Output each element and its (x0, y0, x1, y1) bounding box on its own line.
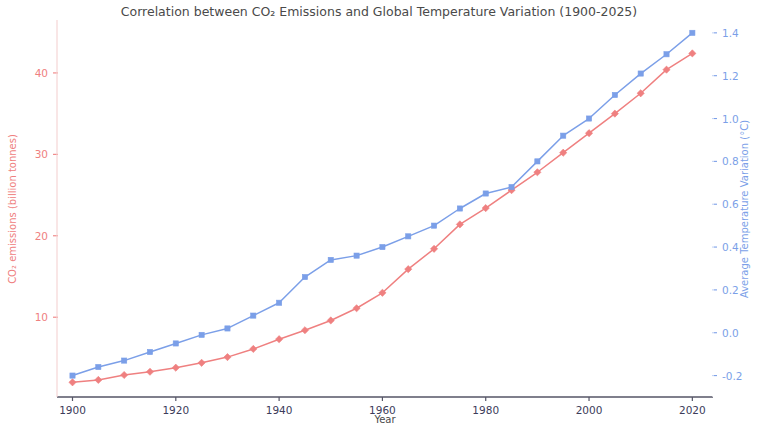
data-point-marker (225, 326, 230, 331)
data-point-marker (612, 92, 617, 97)
y-right-tick-label: 1.4 (722, 27, 739, 39)
data-point-marker (431, 223, 436, 228)
y-left-tick-label: 20 (35, 230, 48, 242)
y-right-tick-label: 0.6 (722, 198, 739, 210)
y-axis-left-label: CO₂ emissions (billion tonnes) (7, 134, 18, 284)
data-point-marker (690, 30, 695, 35)
x-tick-label: 1900 (59, 404, 86, 416)
y-right-tick-label: 0.0 (722, 327, 739, 339)
data-point-marker (70, 373, 75, 378)
chart-title: Correlation between CO₂ Emissions and Gl… (121, 4, 637, 19)
x-axis-label: Year (373, 414, 396, 425)
x-tick-label: 2020 (679, 404, 706, 416)
x-tick-label: 1920 (162, 404, 189, 416)
data-point-marker (173, 341, 178, 346)
data-point-marker (483, 191, 488, 196)
chart-figure: Correlation between CO₂ Emissions and Gl… (0, 0, 758, 428)
data-point-marker (251, 313, 256, 318)
data-point-marker (586, 116, 591, 121)
x-tick-label: 1940 (266, 404, 293, 416)
data-point-marker (328, 257, 333, 262)
y-axis-right-label: Average Temperature Variation (°C) (739, 120, 750, 298)
data-point-marker (457, 206, 462, 211)
data-point-marker (664, 52, 669, 57)
y-right-tick-label: 0.8 (722, 155, 739, 167)
data-point-marker (406, 234, 411, 239)
data-point-marker (535, 159, 540, 164)
data-point-marker (199, 332, 204, 337)
y-right-tick-label: 0.2 (722, 284, 739, 296)
data-point-marker (96, 364, 101, 369)
y-left-tick-label: 40 (35, 67, 48, 79)
data-point-marker (561, 133, 566, 138)
data-point-marker (638, 71, 643, 76)
x-tick-label: 2000 (576, 404, 603, 416)
x-tick-label: 1980 (472, 404, 499, 416)
data-point-marker (354, 253, 359, 258)
y-right-tick-label: 1.0 (722, 113, 739, 125)
y-right-tick-label: 1.2 (722, 70, 739, 82)
y-right-tick-label: 0.4 (722, 241, 739, 253)
data-point-marker (509, 184, 514, 189)
correlation-line-chart: Correlation between CO₂ Emissions and Gl… (0, 0, 758, 428)
data-point-marker (122, 358, 127, 363)
data-point-marker (380, 244, 385, 249)
y-right-tick-label: -0.2 (722, 370, 743, 382)
y-left-tick-label: 30 (35, 148, 48, 160)
data-point-marker (302, 274, 307, 279)
data-point-marker (277, 300, 282, 305)
data-point-marker (147, 349, 152, 354)
y-left-tick-label: 10 (35, 311, 48, 323)
